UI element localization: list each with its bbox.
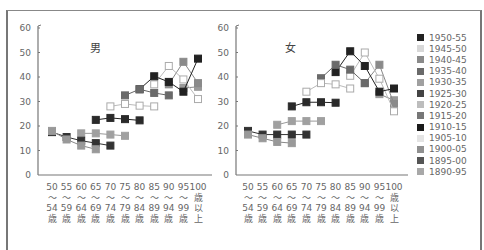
legend-swatch-icon — [417, 101, 424, 108]
x-tick-label: ～ — [62, 193, 71, 203]
legend-item: 1935-40 — [417, 66, 467, 77]
x-tick-label: 歳 — [258, 213, 267, 224]
legend-swatch-icon — [417, 146, 424, 153]
data-point-marker — [288, 140, 295, 147]
data-point-marker — [288, 131, 295, 138]
x-tick-label: 歳 — [150, 213, 159, 224]
data-point-marker — [347, 66, 354, 73]
y-tick-label: 30 — [20, 97, 32, 107]
legend-label: 1930-35 — [429, 77, 467, 87]
series-1910-15 — [318, 61, 369, 86]
legend-item: 1930-35 — [417, 77, 467, 88]
x-tick-label: 74 — [301, 203, 313, 213]
data-point-marker — [136, 102, 143, 109]
data-point-marker — [332, 61, 339, 68]
legend-swatch-icon — [417, 157, 424, 164]
data-point-marker — [63, 136, 70, 143]
data-point-marker — [136, 117, 143, 124]
series-1900-05 — [347, 49, 398, 115]
series-1915-20 — [303, 80, 354, 96]
x-tick-label: ～ — [273, 193, 282, 203]
data-point-marker — [332, 99, 339, 106]
x-tick-label: 60 — [75, 182, 87, 192]
y-tick-label: 40 — [218, 72, 230, 82]
series-1910-15 — [122, 86, 173, 99]
x-tick-label: 85 — [344, 182, 355, 192]
y-tick-label: 20 — [218, 121, 230, 131]
x-tick-label: 上 — [390, 214, 399, 224]
legend-swatch-icon — [417, 56, 424, 63]
x-tick-label: 79 — [119, 203, 131, 213]
data-point-marker — [332, 81, 339, 88]
y-tick-label: 50 — [20, 48, 32, 58]
x-tick-label: 歳 — [135, 213, 144, 224]
data-point-marker — [165, 62, 172, 69]
legend-label: 1905-10 — [429, 133, 467, 143]
series-1920-25 — [288, 99, 339, 110]
legend-item: 1910-15 — [417, 122, 467, 133]
x-tick-label: 55 — [61, 182, 72, 192]
x-tick-label: 75 — [119, 182, 130, 192]
x-tick-label: 上 — [194, 214, 203, 224]
x-tick-label: 80 — [330, 182, 342, 192]
x-tick-label: ～ — [150, 193, 159, 203]
legend-label: 1900-05 — [429, 144, 467, 154]
data-point-marker — [274, 121, 281, 128]
data-point-marker — [303, 131, 310, 138]
data-point-marker — [180, 88, 187, 95]
x-tick-label: 65 — [286, 182, 297, 192]
x-tick-label: 歳 — [331, 213, 340, 224]
x-tick-label: 84 — [134, 203, 146, 213]
data-point-marker — [376, 75, 383, 82]
x-tick-label: ～ — [106, 193, 115, 203]
y-tick-label: 10 — [218, 146, 230, 156]
legend-item: 1895-00 — [417, 155, 467, 166]
legend-item: 1940-45 — [417, 54, 467, 65]
legend-label: 1920-25 — [429, 100, 467, 110]
data-point-marker — [376, 88, 383, 95]
legend-item: 1915-20 — [417, 110, 467, 121]
legend-swatch-icon — [417, 90, 424, 97]
legend-item: 1925-30 — [417, 88, 467, 99]
x-tick-label: ～ — [375, 193, 384, 203]
chart-male: 0102030405060男50～54歳55～59歳60～64歳65～69歳70… — [20, 23, 212, 224]
data-point-marker — [391, 108, 398, 115]
x-tick-label: 歳 — [287, 213, 296, 224]
legend-label: 1895-00 — [429, 156, 467, 166]
x-tick-label: ～ — [360, 193, 369, 203]
x-tick-label: 以 — [390, 203, 399, 213]
x-tick-label: 64 — [271, 203, 283, 213]
data-point-marker — [122, 92, 129, 99]
x-tick-label: 64 — [75, 203, 87, 213]
x-tick-label: 94 — [163, 203, 175, 213]
x-tick-label: 歳 — [77, 213, 86, 224]
data-point-marker — [78, 130, 85, 137]
x-tick-label: 歳 — [106, 213, 115, 224]
x-tick-label: 歳 — [121, 213, 130, 224]
data-point-marker — [318, 118, 325, 125]
data-point-marker — [151, 89, 158, 96]
x-tick-label: 歳 — [390, 192, 399, 203]
series-1925-30 — [78, 130, 129, 139]
data-point-marker — [303, 118, 310, 125]
x-tick-label: 69 — [286, 203, 298, 213]
data-point-marker — [180, 76, 187, 83]
data-point-marker — [195, 80, 202, 87]
x-tick-label: ～ — [91, 193, 100, 203]
data-point-marker — [259, 135, 266, 142]
x-tick-label: 50 — [46, 182, 58, 192]
legend-item: 1950-55 — [417, 32, 467, 43]
series-1925-30 — [274, 118, 325, 129]
x-tick-label: 59 — [257, 203, 269, 213]
data-point-marker — [391, 85, 398, 92]
data-point-marker — [376, 61, 383, 68]
x-tick-label: 90 — [359, 182, 371, 192]
legend-swatch-icon — [417, 124, 424, 131]
x-tick-label: 84 — [330, 203, 342, 213]
x-tick-label: 95 — [178, 182, 189, 192]
chart-title: 男 — [90, 42, 101, 55]
x-tick-label: 54 — [242, 203, 254, 213]
legend-label: 1945-50 — [429, 44, 467, 54]
x-tick-label: 54 — [46, 203, 58, 213]
